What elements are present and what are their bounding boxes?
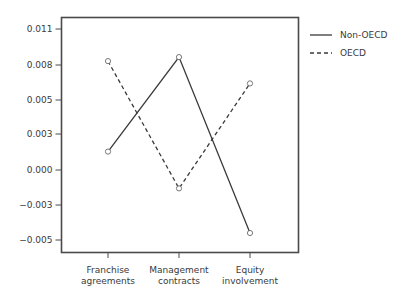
data-point-marker: [105, 149, 110, 154]
x-axis: FranchiseagreementsManagementcontractsEq…: [81, 253, 278, 286]
y-tick-label: 0.005: [27, 95, 53, 105]
plot-frame: [62, 18, 299, 253]
y-tick-label: 0.000: [27, 165, 53, 175]
series-line-oecd: [108, 61, 250, 188]
y-tick-label: 0.011: [27, 24, 53, 34]
data-point-marker: [247, 81, 252, 86]
line-chart: 0.0110.0080.0050.0030.000−0.003−0.005 Fr…: [0, 0, 401, 303]
data-point-marker: [176, 186, 181, 191]
data-point-marker: [247, 230, 252, 235]
y-tick-label: 0.003: [27, 129, 53, 139]
x-category-label: involvement: [222, 276, 278, 286]
x-category-label: Equity: [236, 265, 265, 275]
legend: Non-OECD OECD: [310, 30, 387, 58]
data-point-marker: [105, 59, 110, 64]
y-tick-label: 0.008: [27, 60, 53, 70]
x-category-label: Franchise: [87, 265, 130, 275]
series-line-non-oecd: [108, 57, 250, 233]
legend-label-non-oecd: Non-OECD: [340, 30, 387, 40]
y-axis: 0.0110.0080.0050.0030.000−0.003−0.005: [19, 24, 61, 245]
x-category-label: Management: [149, 265, 209, 275]
y-tick-label: −0.003: [19, 200, 52, 210]
data-point-marker: [176, 55, 181, 60]
legend-label-oecd: OECD: [340, 48, 366, 58]
series-group: [105, 55, 252, 236]
x-category-label: contracts: [158, 276, 200, 286]
y-tick-label: −0.005: [19, 235, 52, 245]
x-category-label: agreements: [81, 276, 135, 286]
